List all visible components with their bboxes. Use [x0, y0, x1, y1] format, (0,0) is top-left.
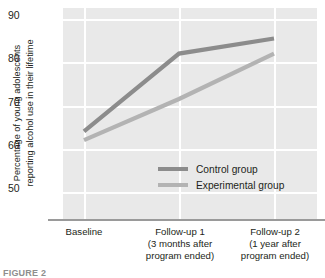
legend-item-experimental: Experimental group — [158, 178, 308, 192]
series-line-experimental — [84, 54, 274, 141]
legend-swatch-control — [158, 167, 188, 171]
chart-legend: Control group Experimental group — [158, 162, 308, 194]
figure-caption: FIGURE 2 — [3, 268, 46, 278]
y-tick-80: 80 — [6, 52, 64, 64]
plot-area: Control group Experimental group — [63, 8, 317, 219]
legend-swatch-experimental — [158, 183, 188, 187]
legend-label-experimental: Experimental group — [196, 180, 284, 191]
y-tick-90: 90 — [6, 9, 64, 21]
y-tick-60: 60 — [6, 139, 64, 151]
y-tick-70: 70 — [6, 96, 64, 108]
x-tick-followup2-line-2: (1 year after — [225, 238, 325, 250]
legend-label-control: Control group — [196, 164, 258, 175]
y-tick-50: 50 — [6, 182, 64, 194]
legend-item-control: Control group — [158, 162, 308, 176]
x-tick-followup2-line-1: Follow-up 2 — [225, 226, 325, 238]
series-line-control — [84, 38, 274, 131]
x-tick-followup1-line-3: program ended) — [128, 250, 232, 262]
x-tick-baseline: Baseline — [42, 226, 126, 238]
x-tick-followup1-line-1: Follow-up 1 — [128, 226, 232, 238]
x-tick-followup2: Follow-up 2 (1 year after program ended) — [225, 226, 325, 263]
x-tick-followup1-line-2: (3 months after — [128, 238, 232, 250]
y-axis-tick-labels: 90 80 70 60 50 — [44, 0, 64, 225]
x-axis-line — [48, 219, 325, 221]
x-tick-baseline-line-1: Baseline — [42, 226, 126, 238]
x-tick-followup2-line-3: program ended) — [225, 250, 325, 262]
x-tick-followup1: Follow-up 1 (3 months after program ende… — [128, 226, 232, 263]
chart-figure: Percentage of young adolescents reportin… — [0, 0, 325, 278]
